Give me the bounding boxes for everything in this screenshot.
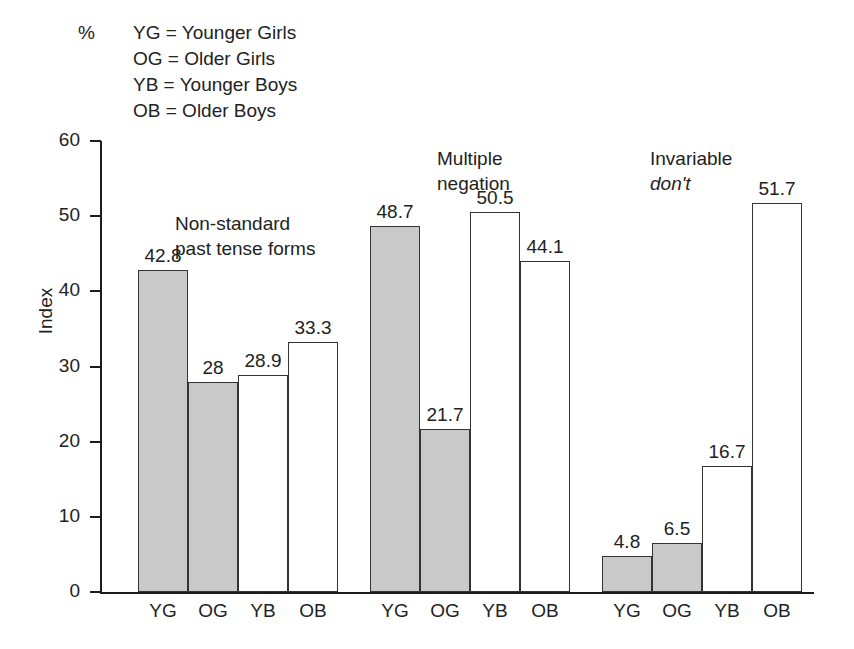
x-axis-label-yg: YG: [370, 600, 420, 622]
bar[interactable]: [602, 556, 652, 592]
y-tick-label: 40: [20, 279, 80, 301]
group-caption: Invariabledon't: [650, 146, 732, 196]
y-tick-mark: [90, 366, 101, 368]
x-axis-label-ob: OB: [520, 600, 570, 622]
x-axis-label-yb: YB: [470, 600, 520, 622]
x-axis-label-og: OG: [420, 600, 470, 622]
y-tick-label: 0: [20, 580, 80, 602]
y-tick-label: 10: [20, 505, 80, 527]
legend: YG = Younger Girls OG = Older Girls YB =…: [133, 20, 297, 124]
y-tick-mark: [90, 591, 101, 593]
bar[interactable]: [752, 203, 802, 592]
y-tick-label: 30: [20, 355, 80, 377]
x-axis-line: [100, 592, 814, 594]
bar-value-label: 48.7: [348, 201, 442, 223]
legend-entry-yb: YB = Younger Boys: [133, 72, 297, 98]
x-axis-label-ob: OB: [752, 600, 802, 622]
legend-entry-ob: OB = Older Boys: [133, 98, 297, 124]
group-caption-line: Non-standard: [175, 211, 315, 236]
x-axis-label-og: OG: [188, 600, 238, 622]
y-tick-mark: [90, 516, 101, 518]
bar[interactable]: [420, 429, 470, 592]
y-tick-label: 50: [20, 204, 80, 226]
x-axis-label-yg: YG: [138, 600, 188, 622]
y-tick-label: 60: [20, 129, 80, 151]
group-caption-line-italic: don't: [650, 171, 732, 196]
x-axis-label-ob: OB: [288, 600, 338, 622]
y-tick-label: 20: [20, 430, 80, 452]
legend-entry-yg: YG = Younger Girls: [133, 20, 297, 46]
bar[interactable]: [470, 212, 520, 592]
legend-entry-og: OG = Older Girls: [133, 46, 297, 72]
group-caption-line: Multiple: [437, 146, 510, 171]
bar[interactable]: [238, 375, 288, 592]
bar[interactable]: [188, 382, 238, 592]
y-tick-mark: [90, 140, 101, 142]
bar-value-label: 33.3: [266, 317, 360, 339]
bar-value-label: 50.5: [448, 187, 542, 209]
bar-value-label: 51.7: [730, 178, 824, 200]
y-axis-title: Index: [35, 251, 57, 371]
bar-value-label: 44.1: [498, 236, 592, 258]
bar[interactable]: [652, 543, 702, 592]
group-caption-line: Invariable: [650, 146, 732, 171]
bar-value-label: 42.8: [116, 245, 210, 267]
y-axis-line: [100, 141, 102, 594]
bar[interactable]: [138, 270, 188, 592]
x-axis-label-yb: YB: [702, 600, 752, 622]
y-axis-unit-label: %: [78, 22, 95, 44]
x-axis-label-og: OG: [652, 600, 702, 622]
y-tick-mark: [90, 290, 101, 292]
bar[interactable]: [288, 342, 338, 592]
bar-chart: % YG = Younger Girls OG = Older Girls YB…: [0, 0, 854, 649]
y-tick-mark: [90, 215, 101, 217]
y-tick-mark: [90, 441, 101, 443]
x-axis-label-yg: YG: [602, 600, 652, 622]
bar[interactable]: [702, 466, 752, 592]
x-axis-label-yb: YB: [238, 600, 288, 622]
bar[interactable]: [520, 261, 570, 592]
